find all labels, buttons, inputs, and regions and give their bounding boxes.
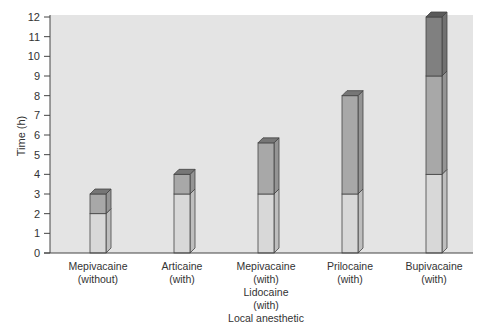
bar-segment-side	[190, 189, 195, 253]
bar-segment-side	[442, 12, 447, 76]
bar-segment-side	[442, 71, 447, 174]
bar-segment	[426, 76, 442, 174]
bar-segment	[90, 194, 106, 214]
bar-segment	[90, 214, 106, 253]
category-label-bupivacaine: Bupivacaine (with)	[379, 260, 482, 286]
bar-segment-side	[358, 189, 363, 253]
y-tick-label: 4	[34, 168, 40, 180]
bar-segment-side	[274, 138, 279, 194]
bar-stack	[426, 12, 447, 253]
y-tick-label: 11	[29, 31, 40, 43]
y-tick-label: 6	[34, 129, 40, 141]
y-tick-label: 1	[34, 227, 40, 239]
y-tick-label: 3	[34, 188, 40, 200]
bar-segment	[258, 143, 274, 194]
bar-segment	[342, 194, 358, 253]
bar-stack	[174, 169, 195, 253]
bar-segment	[342, 96, 358, 194]
y-tick-label: 10	[28, 50, 40, 62]
bar-segment	[174, 174, 190, 194]
y-tick-label: 0	[34, 247, 40, 259]
y-tick-label: 12	[28, 11, 40, 23]
y-tick-label: 9	[34, 70, 40, 82]
bar-segment-side	[442, 169, 447, 253]
bar-segment	[426, 174, 442, 253]
y-tick-label: 8	[34, 90, 40, 102]
y-ticks: 0123456789101112	[28, 11, 50, 259]
bar-segment-side	[106, 209, 111, 253]
y-axis-label: Time (h)	[15, 111, 27, 161]
bar-stack	[342, 91, 363, 253]
bar-segment-side	[358, 91, 363, 194]
bar-stack	[258, 138, 279, 253]
bar-stack	[90, 189, 111, 253]
bar-segment	[258, 194, 274, 253]
bar-segment	[426, 17, 442, 76]
y-tick-label: 2	[34, 208, 40, 220]
bar-segment	[174, 194, 190, 253]
y-tick-label: 5	[34, 149, 40, 161]
bar-segment-side	[274, 189, 279, 253]
y-tick-label: 7	[34, 109, 40, 121]
